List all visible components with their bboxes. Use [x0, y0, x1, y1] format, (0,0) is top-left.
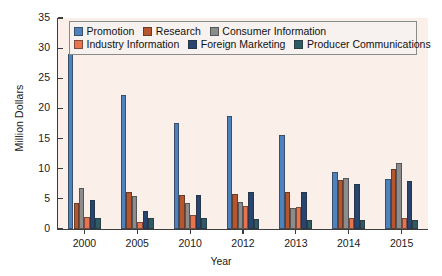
- x-tick-mark: [242, 229, 243, 234]
- x-tick-label: 2010: [160, 237, 220, 249]
- y-tick-mark: [58, 228, 63, 229]
- y-tick-label: 15: [38, 132, 50, 144]
- legend-item-label: Foreign Marketing: [201, 39, 286, 50]
- y-tick-mark: [58, 168, 63, 169]
- x-tick-mark: [84, 229, 85, 234]
- legend-item-label: Industry Information: [87, 39, 180, 50]
- y-axis-label: Million Dollars: [13, 73, 25, 163]
- legend-item-label: Producer Communications: [307, 39, 431, 50]
- y-tick-label: 0: [44, 222, 50, 234]
- y-tick-label: 35: [38, 11, 50, 23]
- bar: [148, 218, 153, 229]
- legend-swatch-icon: [74, 40, 83, 49]
- legend-row: PromotionResearchConsumer Information: [74, 25, 412, 38]
- x-tick-label: 2013: [266, 237, 326, 249]
- y-tick-mark: [58, 198, 63, 199]
- bar: [360, 220, 365, 229]
- legend-item-foreign-marketing[interactable]: Foreign Marketing: [188, 39, 285, 50]
- bar: [307, 220, 312, 229]
- legend-swatch-icon: [74, 27, 83, 36]
- x-tick-label: 2005: [107, 237, 167, 249]
- x-tick-mark: [137, 229, 138, 234]
- y-tick-mark: [58, 108, 63, 109]
- chart-legend: PromotionResearchConsumer InformationInd…: [69, 21, 417, 55]
- legend-item-research[interactable]: Research: [143, 26, 200, 37]
- bar-chart: Million Dollars Year 05101520253035 2000…: [0, 0, 442, 276]
- legend-swatch-icon: [143, 27, 152, 36]
- bar: [201, 218, 206, 229]
- x-tick-mark: [190, 229, 191, 234]
- y-tick-label: 30: [38, 41, 50, 53]
- legend-swatch-icon: [210, 27, 219, 36]
- x-tick-mark: [295, 229, 296, 234]
- bar: [254, 219, 259, 229]
- y-tick-mark: [58, 48, 63, 49]
- x-tick-label: 2015: [372, 237, 432, 249]
- x-tick-mark: [401, 229, 402, 234]
- y-tick-label: 10: [38, 162, 50, 174]
- legend-item-label: Consumer Information: [222, 26, 326, 37]
- x-tick-label: 2014: [319, 237, 379, 249]
- legend-item-promotion[interactable]: Promotion: [74, 26, 134, 37]
- y-tick-mark: [58, 17, 63, 18]
- legend-item-producer-communications[interactable]: Producer Communications: [294, 39, 430, 50]
- y-tick-mark: [58, 138, 63, 139]
- bar: [412, 220, 417, 229]
- y-tick-label: 25: [38, 71, 50, 83]
- legend-item-consumer-information[interactable]: Consumer Information: [210, 26, 326, 37]
- legend-item-industry-information[interactable]: Industry Information: [74, 39, 179, 50]
- legend-swatch-icon: [294, 40, 303, 49]
- bar: [95, 218, 100, 229]
- y-tick-mark: [58, 78, 63, 79]
- y-tick-label: 5: [44, 192, 50, 204]
- x-tick-label: 2012: [213, 237, 273, 249]
- x-tick-mark: [348, 229, 349, 234]
- legend-swatch-icon: [188, 40, 197, 49]
- legend-row: Industry InformationForeign MarketingPro…: [74, 38, 412, 51]
- x-tick-label: 2000: [54, 237, 114, 249]
- x-axis-label: Year: [0, 255, 442, 267]
- legend-item-label: Promotion: [87, 26, 135, 37]
- y-tick-label: 20: [38, 101, 50, 113]
- legend-item-label: Research: [156, 26, 201, 37]
